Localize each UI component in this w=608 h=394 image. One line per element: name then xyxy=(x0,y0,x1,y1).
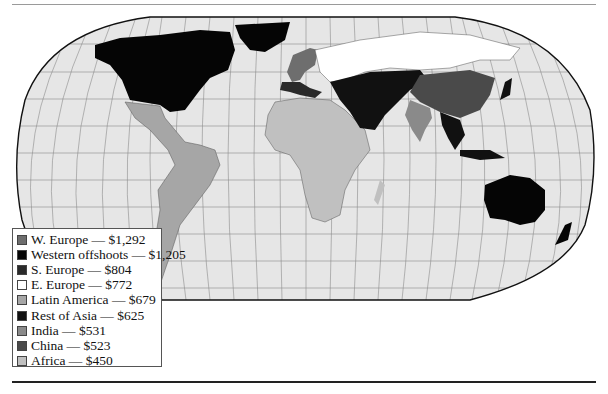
legend-label: Africa — $450 xyxy=(31,353,113,369)
legend-item-s-europe: S. Europe — $804 xyxy=(17,262,161,277)
legend-swatch xyxy=(17,280,27,290)
legend-label: Latin America — $679 xyxy=(31,292,156,308)
bottom-rule xyxy=(12,381,596,383)
legend-label: W. Europe — $1,292 xyxy=(31,232,146,248)
legend-item-china: China — $523 xyxy=(17,338,161,353)
legend-label: E. Europe — $772 xyxy=(31,277,132,293)
legend-label: Western offshoots — $1,205 xyxy=(31,247,186,263)
legend-item-africa: Africa — $450 xyxy=(17,354,161,369)
legend-item-e-europe: E. Europe — $772 xyxy=(17,278,161,293)
legend-item-western-offshoots: Western offshoots — $1,205 xyxy=(17,247,161,262)
legend-label: China — $523 xyxy=(31,338,111,354)
legend-item-w-europe: W. Europe — $1,292 xyxy=(17,232,161,247)
legend-swatch xyxy=(17,311,27,321)
legend-item-india: India — $531 xyxy=(17,323,161,338)
legend-swatch xyxy=(17,295,27,305)
legend-swatch xyxy=(17,265,27,275)
legend-item-latin-america: Latin America — $679 xyxy=(17,293,161,308)
legend-item-rest-of-asia: Rest of Asia — $625 xyxy=(17,308,161,323)
legend-swatch xyxy=(17,326,27,336)
legend-swatch xyxy=(17,356,27,366)
legend-swatch xyxy=(17,250,27,260)
legend-label: Rest of Asia — $625 xyxy=(31,308,144,324)
legend-swatch xyxy=(17,341,27,351)
legend-label: India — $531 xyxy=(31,323,106,339)
legend-label: S. Europe — $804 xyxy=(31,262,132,278)
legend-swatch xyxy=(17,235,27,245)
map-legend: W. Europe — $1,292 Western offshoots — $… xyxy=(12,228,162,367)
